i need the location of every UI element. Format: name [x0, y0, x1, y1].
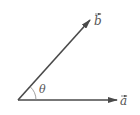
vector-a-label-group: a — [120, 94, 127, 108]
vector-b-line — [18, 20, 90, 100]
vector-a-label: a — [120, 94, 127, 108]
angle-label: θ — [39, 83, 46, 96]
vector-b-label-group: b — [94, 14, 102, 28]
vector-angle-diagram: θ a b — [0, 0, 140, 115]
vector-b-label: b — [94, 14, 102, 28]
vector-b — [18, 20, 90, 100]
angle-arc — [30, 87, 36, 100]
